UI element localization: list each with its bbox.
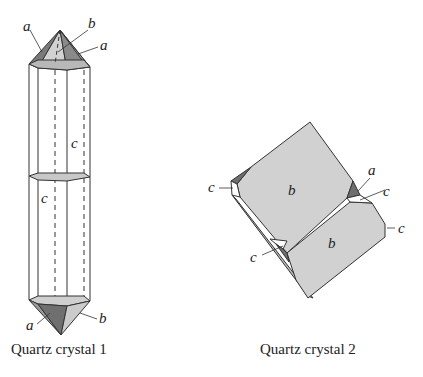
- label-bottom-a: a: [26, 317, 34, 333]
- crystal-2: [231, 122, 385, 298]
- label-left-c: c: [208, 179, 215, 195]
- label-top-b: b: [88, 15, 96, 31]
- caption-crystal-1: Quartz crystal 1: [11, 341, 107, 358]
- label-prism-c-lower: c: [41, 190, 48, 206]
- label-upper-b: b: [288, 182, 296, 198]
- crystal-1: [29, 30, 90, 335]
- label-prism-c-upper: c: [71, 135, 78, 151]
- quartz-crystals-figure: a b a c c a b c b a c c b c: [0, 0, 423, 377]
- label-right-c-upper: c: [383, 183, 390, 199]
- mid-section: [29, 173, 90, 181]
- label-lower-b: b: [328, 235, 336, 251]
- label-bottom-b: b: [99, 310, 107, 326]
- label-top-a-right: a: [100, 37, 108, 53]
- label-right-a: a: [368, 162, 376, 178]
- label-top-a-left: a: [23, 18, 31, 34]
- label-right-c-lower: c: [398, 220, 405, 236]
- caption-crystal-2: Quartz crystal 2: [260, 341, 356, 358]
- label-bottom-c: c: [250, 249, 257, 265]
